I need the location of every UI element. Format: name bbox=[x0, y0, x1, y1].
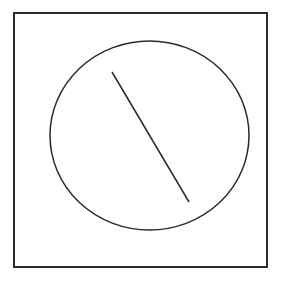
diagram-canvas bbox=[0, 0, 283, 281]
diagonal-line bbox=[112, 72, 189, 202]
